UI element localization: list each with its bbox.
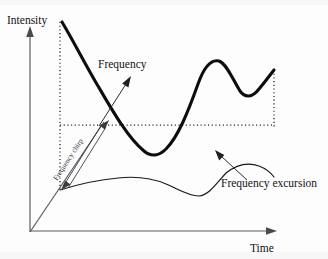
diagram-svg: Intensity Time Frequency Frequency chirp… xyxy=(0,0,328,259)
x-axis-label: Time xyxy=(250,242,274,254)
frequency-excursion-label: Frequency excursion xyxy=(221,177,317,190)
frequency-arrow-head xyxy=(122,76,131,87)
x-axis-arrowhead xyxy=(266,227,277,234)
y-axis-arrowhead xyxy=(26,26,34,37)
frequency-arrow-line xyxy=(99,84,126,126)
axes-group xyxy=(26,26,277,235)
chirp-arrow-head-upper xyxy=(100,120,109,129)
frequency-label: Frequency xyxy=(98,58,147,71)
excursion-arrow-head xyxy=(215,150,224,160)
frequency-curve xyxy=(62,22,274,155)
figure-container: Intensity Time Frequency Frequency chirp… xyxy=(0,0,328,259)
guide-lines-group xyxy=(60,22,275,191)
y-axis-label: Intensity xyxy=(7,14,47,27)
frequency-annotation-arrow xyxy=(99,76,131,126)
